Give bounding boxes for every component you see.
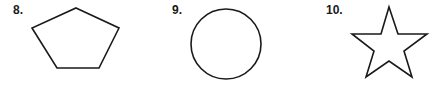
pentagon-shape [32,8,119,68]
circle-shape [191,9,261,79]
shapes-canvas [0,0,442,88]
star-shape [352,7,427,77]
